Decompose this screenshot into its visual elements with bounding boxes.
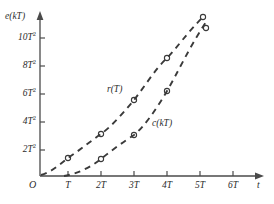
data-point <box>98 131 103 136</box>
y-tick-label-exponent: 2 <box>33 58 36 65</box>
y-axis-ticks <box>40 38 45 150</box>
y-tick-label-exponent: 2 <box>33 86 36 93</box>
data-point <box>164 55 169 60</box>
y-tick-label-text: 10T <box>18 32 33 42</box>
x-tick-label-4T: 4T <box>155 181 179 191</box>
x-axis-ticks <box>68 171 233 176</box>
data-point <box>203 25 208 30</box>
y-tick-label-10T2: 10T2 <box>0 33 36 43</box>
y-tick-label-exponent: 2 <box>33 30 36 37</box>
curve-rT <box>41 16 204 175</box>
x-tick-label-5T: 5T <box>188 181 212 191</box>
y-tick-label-4T2: 4T2 <box>0 117 36 127</box>
x-tick-label-3T: 3T <box>122 181 146 191</box>
y-axis-label: e(kT) <box>5 12 25 22</box>
x-tick-label-2T: 2T <box>89 181 113 191</box>
y-tick-label-8T2: 8T2 <box>0 61 36 71</box>
y-tick-label-6T2: 6T2 <box>0 89 36 99</box>
y-tick-label-2T2: 2T2 <box>0 145 36 155</box>
x-axis-arrow-icon <box>255 173 264 180</box>
y-tick-label-text: 8T <box>23 60 33 70</box>
y-tick-label-exponent: 2 <box>33 142 36 149</box>
curve-label-rT: r(T) <box>107 85 122 95</box>
chart-plot-area <box>0 0 274 204</box>
y-tick-label-text: 2T <box>23 144 33 154</box>
y-axis-arrow-icon <box>37 11 44 20</box>
x-axis-label: t <box>257 181 260 191</box>
x-tick-label-T: T <box>56 181 80 191</box>
y-tick-label-text: 4T <box>23 116 33 126</box>
data-point <box>131 97 136 102</box>
y-tick-label-exponent: 2 <box>33 114 36 121</box>
data-point <box>98 156 103 161</box>
data-point <box>200 14 205 19</box>
origin-label: O <box>29 180 36 190</box>
data-point <box>65 155 70 160</box>
curve-label-ckT: c(kT) <box>152 119 172 129</box>
y-tick-label-text: 6T <box>23 88 33 98</box>
chart-figure: e(kT) t O 2T2 4T2 6T2 8T2 10T2 T 2T 3T 4… <box>0 0 274 204</box>
x-tick-label-6T: 6T <box>221 181 245 191</box>
